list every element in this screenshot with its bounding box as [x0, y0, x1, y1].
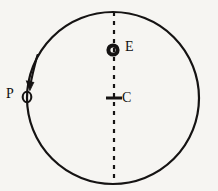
figure-container: E C P [0, 0, 218, 191]
label-c: C [122, 91, 131, 105]
label-p: P [6, 87, 14, 101]
orbit-diagram [0, 0, 218, 191]
label-e: E [125, 40, 134, 54]
